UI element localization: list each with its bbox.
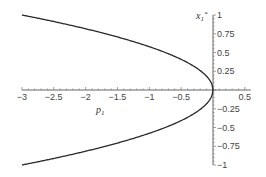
- y-tick-label: 0.5: [217, 48, 230, 58]
- x-tick-label: 0.5: [239, 92, 252, 102]
- x-axis-label: p1: [95, 104, 105, 117]
- y-tick-label: 0.75: [217, 29, 235, 39]
- y-tick-label: −0.25: [217, 104, 240, 114]
- y-tick-label: −0.75: [217, 141, 240, 151]
- x-tick-label: −1: [144, 92, 154, 102]
- y-tick-label: 1: [217, 10, 222, 20]
- x-tick-label: −0.5: [172, 92, 190, 102]
- y-tick-label: 0.25: [217, 66, 235, 76]
- x-tick-label: −2: [80, 92, 90, 102]
- x-tick-label: −3: [17, 92, 27, 102]
- y-tick-label: −0.5: [217, 123, 235, 133]
- x-tick-label: −1.5: [109, 92, 127, 102]
- bifurcation-chart: −3−2.5−2−1.5−1−0.50.510.750.50.25−0.25−0…: [0, 0, 266, 177]
- upper-branch-line: [22, 15, 213, 90]
- y-axis-label: x1*: [195, 10, 208, 23]
- x-tick-label: −2.5: [45, 92, 63, 102]
- y-tick-label: −1: [217, 160, 227, 170]
